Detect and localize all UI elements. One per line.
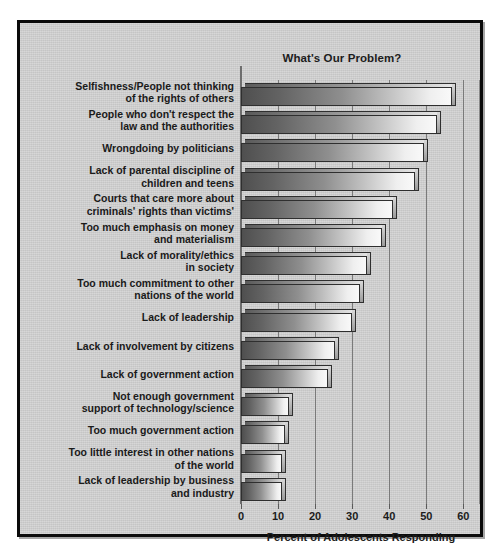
bar-face [241,369,328,388]
category-label: Too much commitment to othernations of t… [34,277,234,302]
bar-face [241,87,452,106]
category-label-line: support of technology/science [34,402,234,415]
x-tick-30 [352,504,353,509]
category-label-line: Lack of involvement by citizens [34,340,234,353]
category-label-line: Too little interest in other nations [34,446,234,459]
gridline-60 [463,80,464,504]
bar-side-face [367,252,371,275]
bar-face [241,256,367,275]
category-label-line: Lack of leadership [34,311,234,324]
x-tick-20 [315,504,316,509]
category-label-line: Lack of parental discipline of [34,164,234,177]
bar-side-face [352,309,356,332]
category-label: Lack of morality/ethicsin society [34,249,234,274]
category-label: Lack of parental discipline ofchildren a… [34,164,234,189]
category-label: Lack of government action [34,368,234,381]
bar-side-face [382,224,386,247]
category-label-line: of the rights of others [34,92,234,105]
category-label: Too much emphasis on moneyand materialis… [34,221,234,246]
category-label: Lack of leadership by businessand indust… [34,474,234,499]
bar-side-face [328,365,332,388]
category-label: Courts that care more aboutcriminals' ri… [34,192,234,217]
category-label-line: and materialism [34,233,234,246]
category-axis-labels: Selfishness/People not thinkingof the ri… [34,80,234,504]
x-tick-40 [389,504,390,509]
x-tick-50 [426,504,427,509]
bar-face [241,313,352,332]
bar-face [241,341,335,360]
category-label-line: Lack of morality/ethics [34,249,234,262]
category-label-line: of the world [34,459,234,472]
chart-title: What's Our Problem? [222,52,462,64]
bar-face [241,228,382,247]
x-tick-label-30: 30 [337,510,367,522]
x-tick-label-60: 60 [448,510,478,522]
category-label-line: Lack of leadership by business [34,474,234,487]
category-label-line: criminals' rights than victims' [34,205,234,218]
category-label-line: nations of the world [34,289,234,302]
category-label-line: People who don't respect the [34,108,234,121]
x-tick-label-40: 40 [374,510,404,522]
category-label-line: Wrongdoing by politicians [34,142,234,155]
bar-face [241,397,289,416]
bar-side-face [452,83,456,106]
category-label-line: children and teens [34,177,234,190]
bar-face [241,115,437,134]
bar-side-face [393,196,397,219]
category-label: Lack of involvement by citizens [34,340,234,353]
chart-frame: What's Our Problem? Selfishness/People n… [17,20,483,537]
bar-face [241,425,285,444]
bar-side-face [289,393,293,416]
category-label-line: Too much emphasis on money [34,221,234,234]
bar-face [241,143,424,162]
bar-face [241,200,393,219]
x-tick-label-50: 50 [411,510,441,522]
category-label: Lack of leadership [34,311,234,324]
category-label-line: Selfishness/People not thinking [34,80,234,93]
bar-side-face [285,421,289,444]
category-label: People who don't respect thelaw and the … [34,108,234,133]
bar-side-face [360,280,364,303]
category-label: Too much government action [34,424,234,437]
category-label-line: Courts that care more about [34,192,234,205]
x-tick-10 [278,504,279,509]
category-label: Selfishness/People not thinkingof the ri… [34,80,234,105]
category-label-line: Too much government action [34,424,234,437]
bar-face [241,172,415,191]
bar-side-face [282,450,286,473]
x-tick-label-0: 0 [226,510,256,522]
category-label-line: Lack of government action [34,368,234,381]
category-label-line: in society [34,261,234,274]
bar-side-face [424,139,428,162]
figure: What's Our Problem? Selfishness/People n… [0,0,504,559]
x-tick-0 [241,504,242,509]
bar-face [241,284,360,303]
category-label-line: and industry [34,487,234,500]
x-tick-60 [463,504,464,509]
bar-side-face [437,111,441,134]
category-label-line: Not enough government [34,390,234,403]
category-label-line: law and the authorities [34,120,234,133]
category-label-line: Too much commitment to other [34,277,234,290]
bar-side-face [335,337,339,360]
x-tick-label-10: 10 [263,510,293,522]
bar-face [241,482,282,501]
plot-area: 0102030405060 [241,80,481,504]
plot-right-border [479,80,480,504]
category-label: Wrongdoing by politicians [34,142,234,155]
bar-side-face [415,168,419,191]
x-axis-title: Percent of Adolescents Responding [241,531,481,543]
category-label: Too little interest in other nationsof t… [34,446,234,471]
category-label: Not enough governmentsupport of technolo… [34,390,234,415]
bar-face [241,454,282,473]
x-tick-label-20: 20 [300,510,330,522]
bar-side-face [282,478,286,501]
